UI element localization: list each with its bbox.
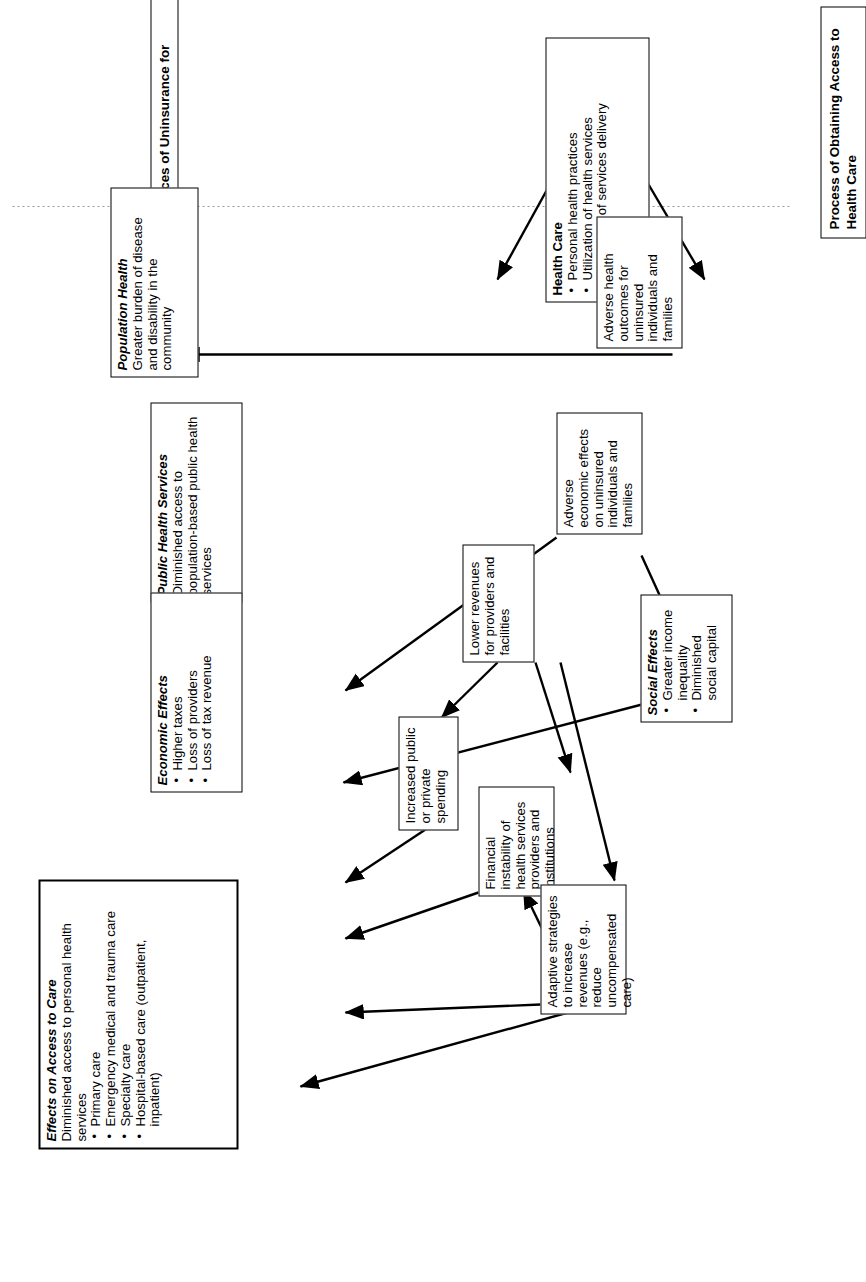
edge-adaptive-to-effects-access bbox=[300, 1010, 575, 1086]
node-financial-instability[interactable]: Financial instability of health services… bbox=[478, 786, 554, 896]
node-public-health-services-subtitle: Diminished access to population-based pu… bbox=[170, 409, 214, 595]
node-economic-effects[interactable]: Economic Effects Higher taxes Loss of pr… bbox=[150, 592, 242, 792]
list-item: Diminished social capital bbox=[689, 601, 719, 700]
edge-lowerrevenues-to-adaptive-strategies bbox=[560, 662, 614, 880]
list-item: Greater income inequality bbox=[660, 601, 690, 700]
node-social-effects-bullets: Greater income inequality Diminished soc… bbox=[660, 601, 719, 715]
list-item: Personal health practices bbox=[565, 44, 580, 280]
node-public-health-services-title: Public Health Services bbox=[155, 409, 170, 595]
edge-financialinstability-to-economic-effects bbox=[345, 892, 478, 938]
node-adverse-economic[interactable]: Adverse economic effects on uninsured in… bbox=[556, 412, 642, 534]
node-adverse-economic-text: Adverse economic effects on uninsured in… bbox=[560, 428, 634, 527]
node-social-effects[interactable]: Social Effects Greater income inequality… bbox=[640, 594, 732, 722]
node-population-health-title: Population Health bbox=[115, 194, 130, 370]
list-item: Primary care bbox=[88, 887, 103, 1126]
edge-lowerrevenues-to-increased-spending bbox=[441, 662, 497, 717]
node-population-health-subtitle: Greater burden of disease and disability… bbox=[130, 194, 174, 370]
node-effects-access-title: Effects on Access to Care bbox=[44, 887, 59, 1141]
edge-increasedspending-to-economic-effects bbox=[345, 827, 428, 882]
list-item: Utilization of health services bbox=[580, 44, 595, 280]
node-public-health-services[interactable]: Public Health Services Diminished access… bbox=[150, 402, 242, 602]
node-economic-effects-title: Economic Effects bbox=[155, 599, 170, 785]
list-item: Loss of tax revenue bbox=[199, 599, 214, 770]
list-item: Hospital-based care (outpatient, inpatie… bbox=[133, 887, 163, 1126]
node-adverse-health-text: Adverse health outcomes for uninsured in… bbox=[600, 253, 674, 341]
heading-process: Process of Obtaining Access to Health Ca… bbox=[820, 6, 866, 238]
node-adverse-health[interactable]: Adverse health outcomes for uninsured in… bbox=[596, 216, 682, 348]
node-health-care-title: Health Care bbox=[550, 44, 565, 295]
node-social-effects-title: Social Effects bbox=[645, 601, 660, 715]
node-effects-access-bullets: Primary care Emergency medical and traum… bbox=[88, 887, 162, 1141]
node-economic-effects-bullets: Higher taxes Loss of providers Loss of t… bbox=[170, 599, 214, 785]
node-adaptive-strategies[interactable]: Adaptive strategies to increase revenues… bbox=[540, 884, 626, 1014]
edge-socialeffects-to-public-health bbox=[343, 696, 672, 782]
list-item: Specialty care bbox=[118, 887, 133, 1126]
node-population-health[interactable]: Population Health Greater burden of dise… bbox=[110, 187, 198, 377]
heading-process-label: Process of Obtaining Access to Health Ca… bbox=[826, 28, 858, 229]
edge-adaptive-to-economic-effects bbox=[345, 1004, 540, 1012]
node-lower-revenues[interactable]: Lower revenues for providers and facilit… bbox=[462, 544, 534, 662]
node-increased-spending-text: Increased public or private spending bbox=[402, 727, 447, 823]
node-effects-access-to-care[interactable]: Effects on Access to Care Diminished acc… bbox=[38, 879, 238, 1149]
list-item: Emergency medical and trauma care bbox=[103, 887, 118, 1126]
node-effects-access-subtitle: Diminished access to personal health ser… bbox=[59, 887, 89, 1141]
list-item: Loss of providers bbox=[185, 599, 200, 770]
node-lower-revenues-text: Lower revenues for providers and facilit… bbox=[466, 556, 511, 655]
list-item: Higher taxes bbox=[170, 599, 185, 770]
node-increased-spending[interactable]: Increased public or private spending bbox=[398, 716, 458, 830]
node-adaptive-strategies-text: Adaptive strategies to increase revenues… bbox=[544, 895, 633, 1007]
node-financial-instability-text: Financial instability of health services… bbox=[482, 801, 556, 889]
